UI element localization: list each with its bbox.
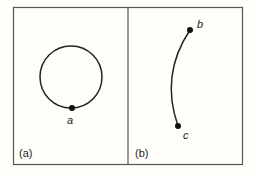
point-c-label: c xyxy=(183,129,189,141)
panel-a-label: (a) xyxy=(19,147,32,159)
point-b-marker xyxy=(187,27,193,33)
point-a-label: a xyxy=(67,114,73,126)
panel-a: a (a) xyxy=(19,46,102,159)
panel-b-label: (b) xyxy=(135,147,148,159)
arc-path xyxy=(171,30,190,126)
point-b-label: b xyxy=(197,18,203,30)
circle-path xyxy=(40,46,102,108)
point-a-marker xyxy=(69,105,75,111)
diagram: a (a) b c (b) xyxy=(0,0,255,174)
panel-b: b c (b) xyxy=(135,18,203,159)
point-c-marker xyxy=(175,123,181,129)
